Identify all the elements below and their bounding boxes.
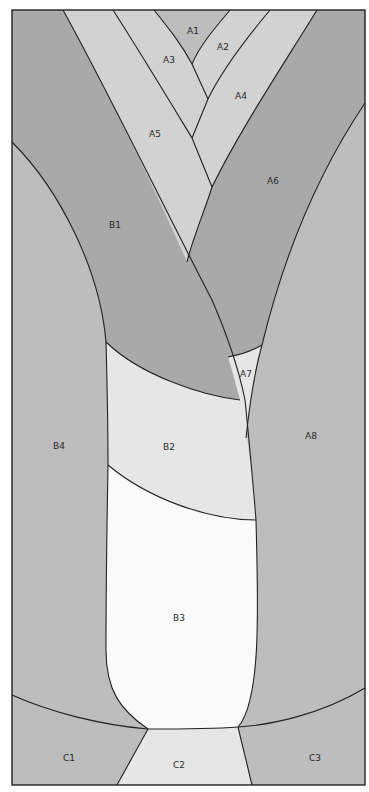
label-b1: B1 — [109, 220, 121, 230]
label-b3: B3 — [173, 613, 185, 623]
label-a3: A3 — [163, 55, 175, 65]
label-a6: A6 — [267, 176, 279, 186]
label-b4: B4 — [53, 441, 65, 451]
quilt-diagram: A1 A2 A3 A4 A5 A6 B1 A7 A8 B4 B2 B3 C1 C… — [0, 0, 369, 792]
label-a7: A7 — [240, 369, 252, 379]
label-c2: C2 — [173, 760, 185, 770]
label-a2: A2 — [217, 42, 229, 52]
label-a8: A8 — [305, 431, 317, 441]
label-a5: A5 — [149, 129, 161, 139]
label-b2: B2 — [163, 442, 175, 452]
label-c1: C1 — [63, 753, 75, 763]
label-c3: C3 — [309, 753, 321, 763]
label-a4: A4 — [235, 91, 247, 101]
label-a1: A1 — [187, 26, 199, 36]
